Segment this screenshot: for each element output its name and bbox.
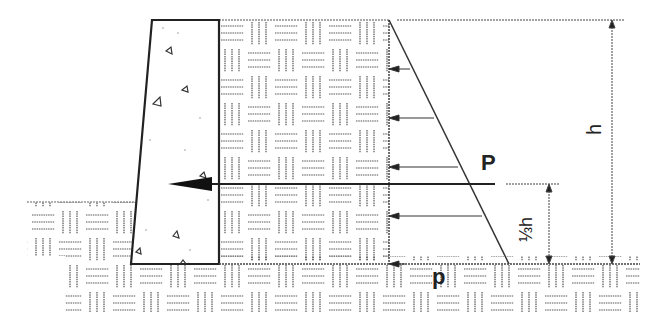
arrow-left-icon — [389, 115, 399, 121]
one-third-height-label: ⅓h — [516, 217, 537, 242]
height-dimension — [397, 20, 624, 264]
pressure-distribution-line — [389, 20, 509, 264]
arrow-left-icon — [389, 213, 399, 219]
backfill-soil — [219, 20, 389, 264]
retaining-wall-diagram: P p h ⅓h — [0, 0, 658, 327]
arrow-left-icon — [389, 164, 399, 170]
diagram-canvas — [0, 0, 658, 327]
pressure-arrows — [389, 66, 482, 267]
left-ground-soil — [27, 202, 137, 256]
base-pressure-label: p — [432, 264, 445, 290]
retaining-wall — [131, 20, 219, 264]
resultant-force-label: P — [481, 150, 496, 176]
height-label: h — [583, 124, 606, 135]
arrow-left-icon — [389, 66, 399, 72]
